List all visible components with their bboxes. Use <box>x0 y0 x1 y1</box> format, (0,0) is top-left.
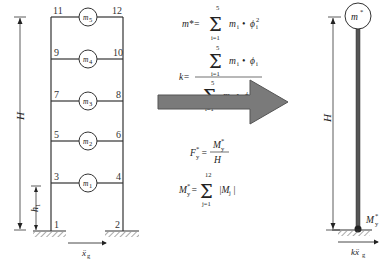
svg-text:H: H <box>14 111 26 121</box>
left-frame: m 5 m 4 m 3 m 2 m 1 11 12 9 10 7 <box>14 5 139 259</box>
svg-text:y: y <box>221 145 225 152</box>
svg-text:12: 12 <box>205 171 212 178</box>
svg-text:ẍ: ẍ <box>81 248 86 258</box>
sdof-model: m * H M * y kẍ g <box>321 3 379 258</box>
formula-F-y: F * y = M * y H <box>189 137 229 165</box>
svg-text:ϕ: ϕ <box>250 19 255 29</box>
svg-text:m*=: m*= <box>182 19 200 29</box>
svg-text:3: 3 <box>89 100 92 107</box>
svg-text:F: F <box>189 148 196 158</box>
svg-text:12: 12 <box>112 5 122 16</box>
diagram-canvas: m 5 m 4 m 3 m 2 m 1 11 12 9 10 7 <box>0 0 390 266</box>
svg-text:m: m <box>351 12 358 22</box>
height-dimension: H <box>14 17 26 230</box>
formula-M-y: M * y = 12 Σ j=1 |M j | <box>178 171 236 207</box>
svg-text:i: i <box>256 23 258 30</box>
svg-text:y: y <box>375 220 379 227</box>
svg-text:*: * <box>360 8 363 15</box>
svg-text:11: 11 <box>53 5 63 16</box>
svg-text:1: 1 <box>54 219 59 230</box>
sdof-ground-acceleration-arrow: kẍ g <box>338 242 378 258</box>
svg-text:8: 8 <box>116 89 121 100</box>
svg-text:m: m <box>229 19 236 29</box>
svg-text:i: i <box>237 23 239 30</box>
svg-text:m: m <box>229 56 236 66</box>
mass-m2: m 2 <box>79 132 97 150</box>
sdof-base-moment-label: M * y <box>365 212 379 227</box>
svg-text:2: 2 <box>115 219 120 230</box>
sdof-ground-support <box>332 230 372 236</box>
svg-text:6: 6 <box>116 129 121 140</box>
svg-text:1: 1 <box>89 182 92 189</box>
svg-text:1: 1 <box>34 204 41 207</box>
svg-text:i: i <box>256 60 258 67</box>
svg-text:H: H <box>213 155 222 165</box>
mass-m5: m 5 <box>79 8 97 26</box>
svg-text:9: 9 <box>54 47 59 58</box>
svg-text:j=1: j=1 <box>201 200 211 207</box>
svg-text:kẍ: kẍ <box>351 247 359 257</box>
svg-text:k=: k= <box>179 72 190 82</box>
mass-m3: m 3 <box>79 92 97 110</box>
sdof-column <box>356 29 360 229</box>
svg-text:i=1: i=1 <box>211 34 220 41</box>
svg-text:H: H <box>321 113 333 123</box>
svg-text:M: M <box>365 215 375 225</box>
svg-text:Σ: Σ <box>200 181 213 202</box>
svg-text:3: 3 <box>54 171 59 182</box>
svg-text:5: 5 <box>216 4 219 11</box>
ground-acceleration-arrow: ẍ g <box>68 243 106 259</box>
svg-text:i: i <box>237 60 239 67</box>
svg-text:*: * <box>375 212 378 219</box>
ground-support-left <box>33 231 66 237</box>
svg-text:*: * <box>196 145 199 152</box>
svg-text:g: g <box>87 252 91 259</box>
svg-text:5: 5 <box>54 129 59 140</box>
svg-text:Σ: Σ <box>209 51 222 72</box>
svg-text:5: 5 <box>211 79 214 86</box>
svg-text:*: * <box>187 182 190 189</box>
mass-m1: m 1 <box>79 174 97 192</box>
sdof-mass: m * <box>345 3 371 29</box>
svg-text:*: * <box>221 137 224 144</box>
svg-text:ϕ: ϕ <box>250 56 255 66</box>
ground-support-right <box>105 231 139 237</box>
svg-text:i=1: i=1 <box>211 70 220 77</box>
svg-text:g: g <box>362 251 366 258</box>
svg-text:5: 5 <box>89 16 92 23</box>
svg-text:10: 10 <box>113 47 123 58</box>
svg-text:4: 4 <box>116 171 121 182</box>
svg-text:5: 5 <box>216 44 219 51</box>
sdof-height-dimension: H <box>321 17 341 230</box>
transformation-arrow <box>158 80 288 124</box>
formula-m-star: m*= 5 Σ i=1 m i • ϕ i 2 <box>182 4 259 41</box>
svg-text:y: y <box>196 153 200 160</box>
first-storey-dimension: h 1 <box>29 186 41 230</box>
svg-text:j: j <box>228 189 231 196</box>
svg-text:•: • <box>242 56 245 66</box>
svg-text:7: 7 <box>54 89 59 100</box>
svg-text:Σ: Σ <box>209 14 222 35</box>
svg-text:2: 2 <box>256 16 259 23</box>
node-labels: 11 12 9 10 7 8 5 6 3 4 1 2 <box>53 5 123 230</box>
svg-text:=: = <box>191 185 197 195</box>
mass-m4: m 4 <box>79 50 97 68</box>
svg-text:2: 2 <box>89 140 92 147</box>
svg-text:=: = <box>201 148 207 158</box>
svg-text:|: | <box>233 185 236 195</box>
svg-text:•: • <box>242 19 245 29</box>
